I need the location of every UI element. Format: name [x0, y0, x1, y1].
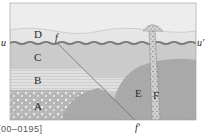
label-u-prime: u′: [197, 37, 205, 48]
label-f-bottom: f′: [135, 122, 141, 133]
caption: [00–0195]: [0, 124, 43, 134]
label-c: C: [34, 51, 41, 63]
label-b: B: [34, 74, 41, 86]
label-u: u: [1, 37, 6, 48]
cross-section-diagram: D C B A E F u u′ f f′: [0, 0, 209, 136]
label-e: E: [135, 87, 142, 99]
label-a: A: [34, 100, 42, 112]
label-f: F: [153, 89, 159, 101]
label-d: D: [34, 28, 42, 40]
